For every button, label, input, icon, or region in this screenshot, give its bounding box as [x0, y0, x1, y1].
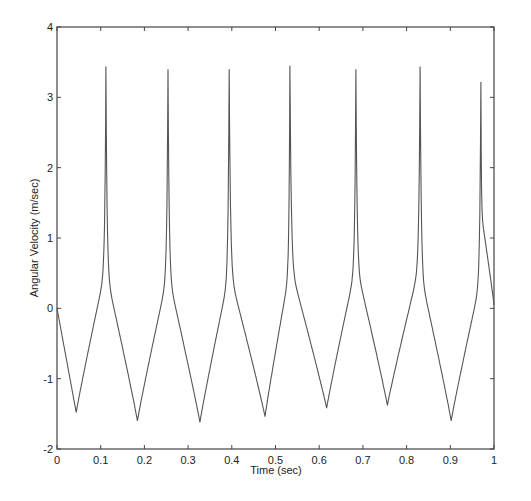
y-tick-label: 1	[47, 232, 53, 244]
x-tick-label: 0.8	[399, 454, 414, 466]
y-axis: -2-101234	[43, 21, 494, 455]
x-tick-label: 1	[491, 454, 497, 466]
y-tick-label: 0	[47, 302, 53, 314]
y-tick-label: -1	[43, 373, 53, 385]
x-tick-label: 0.4	[224, 454, 239, 466]
x-tick-label: 0.3	[180, 454, 195, 466]
x-tick-label: 0.7	[355, 454, 370, 466]
x-tick-label: 0	[54, 454, 60, 466]
y-tick-label: 2	[47, 162, 53, 174]
plot-area	[57, 27, 494, 449]
x-tick-label: 0.1	[93, 454, 108, 466]
y-tick-label: -2	[43, 443, 53, 455]
x-tick-label: 0.2	[137, 454, 152, 466]
x-axis-label: Time (sec)	[250, 464, 302, 476]
y-axis-label: Angular Velocity (m/sec)	[28, 179, 40, 298]
x-tick-label: 0.6	[312, 454, 327, 466]
line-chart: 00.10.20.30.40.50.60.70.80.91 -2-101234 …	[0, 0, 531, 501]
y-tick-label: 4	[47, 21, 53, 33]
plot-frame	[57, 27, 494, 449]
y-tick-label: 3	[47, 91, 53, 103]
x-tick-label: 0.9	[443, 454, 458, 466]
x-axis: 00.10.20.30.40.50.60.70.80.91	[54, 27, 497, 466]
angular-velocity-line	[57, 66, 494, 423]
